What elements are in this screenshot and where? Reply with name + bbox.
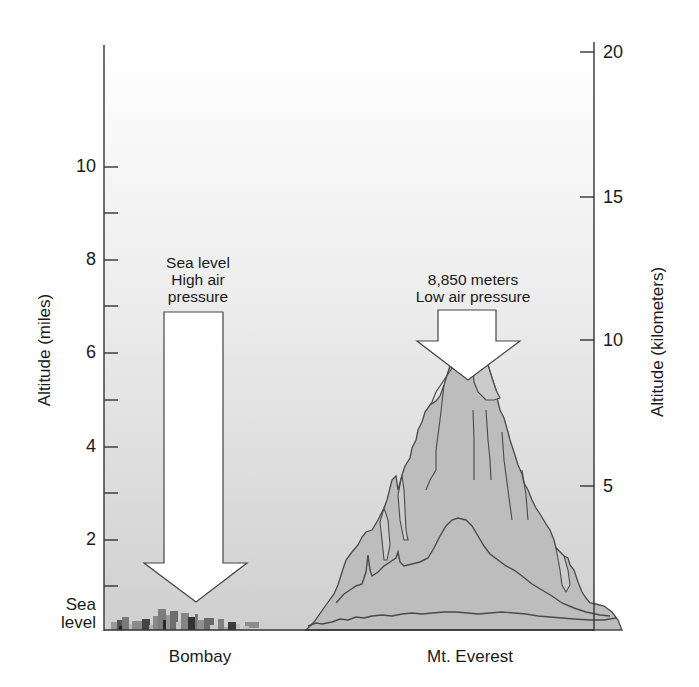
right-tick-5: 5 — [603, 476, 643, 497]
right-axis-title: Altitude (kilometers) — [648, 252, 668, 432]
left-tick-8: 8 — [56, 249, 96, 270]
left-tick-2: 2 — [56, 529, 96, 550]
bombay-callout-line1: Sea level — [138, 254, 258, 271]
left-tick-4: 4 — [56, 436, 96, 457]
left-tick-10: 10 — [56, 156, 96, 177]
left-axis-title: Altitude (miles) — [35, 280, 55, 420]
everest-callout-line1: 8,850 meters — [388, 271, 558, 288]
right-tick-20: 20 — [603, 42, 643, 63]
sea-level-label-line1: Sea — [56, 596, 96, 614]
left-tick-sea-level: Sea level — [56, 596, 96, 632]
bombay-callout-line3: pressure — [138, 288, 258, 305]
bombay-callout: Sea level High air pressure — [138, 254, 258, 305]
altitude-pressure-diagram: 10 8 6 4 2 Sea level Altitude (miles) 20… — [0, 0, 699, 687]
everest-callout: 8,850 meters Low air pressure — [388, 271, 558, 305]
right-tick-15: 15 — [603, 187, 643, 208]
sea-level-label-line2: level — [56, 614, 96, 632]
right-tick-10: 10 — [603, 330, 643, 351]
bombay-label: Bombay — [140, 647, 260, 667]
left-tick-6: 6 — [56, 342, 96, 363]
bombay-callout-line2: High air — [138, 271, 258, 288]
mt-everest-label: Mt. Everest — [400, 647, 540, 667]
everest-callout-line2: Low air pressure — [388, 288, 558, 305]
